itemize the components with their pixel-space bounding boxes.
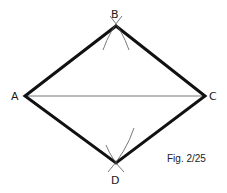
rhombus-construction-diagram: A B C D Fig. 2/25 <box>0 0 227 193</box>
construction-arc-d-right <box>108 128 134 172</box>
figure-caption: Fig. 2/25 <box>167 153 206 164</box>
vertex-label-a: A <box>11 90 19 103</box>
rhombus-abcd <box>25 26 205 163</box>
vertex-label-d: D <box>111 174 119 187</box>
vertex-label-c: C <box>209 90 217 103</box>
vertex-label-b: B <box>111 8 119 21</box>
